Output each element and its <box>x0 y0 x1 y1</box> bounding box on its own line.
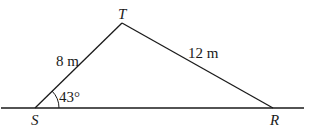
side-label-st: 8 m <box>56 53 79 69</box>
angle-arc-s <box>52 91 59 108</box>
angle-label-s: 43° <box>59 89 80 105</box>
triangle-diagram: T S R 8 m 12 m 43° <box>0 0 313 136</box>
side-tr <box>122 23 273 108</box>
vertex-label-r: R <box>269 112 279 128</box>
side-label-tr: 12 m <box>188 45 219 61</box>
vertex-label-s: S <box>31 112 39 128</box>
vertex-label-t: T <box>118 6 128 22</box>
